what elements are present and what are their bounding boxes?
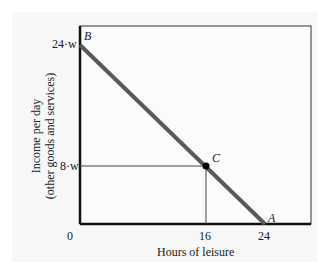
x-axis-label: Hours of leisure — [157, 245, 234, 260]
x-tick-24: 24 — [258, 229, 270, 244]
x-tick-0: 0 — [67, 229, 73, 244]
y-tick-8w: 8·w — [60, 159, 79, 174]
point-b-label: B — [84, 29, 91, 44]
y-axis-label: Income per day (other goods and services… — [29, 51, 57, 221]
y-axis-label-line2: (other goods and services) — [43, 51, 57, 221]
point-c-marker — [203, 163, 210, 170]
point-a-label: A — [268, 211, 275, 226]
plot-frame — [80, 26, 311, 224]
y-tick-24w: 24·w — [52, 37, 77, 52]
point-c-label: C — [212, 151, 220, 166]
y-axis-label-line1: Income per day — [29, 51, 43, 221]
x-tick-16: 16 — [199, 229, 211, 244]
